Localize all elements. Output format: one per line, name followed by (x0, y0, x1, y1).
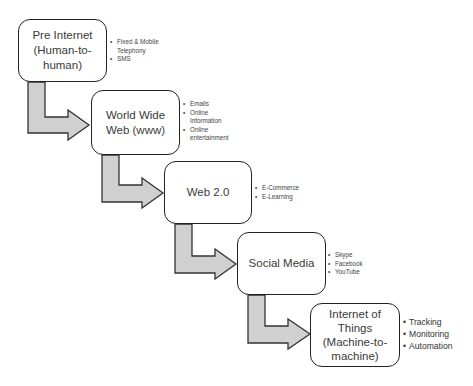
stage-bullets-world-wide-web: Emails Online Information Online enterta… (183, 100, 238, 143)
internet-evolution-diagram: Pre Internet (Human-to- human) Fixed & M… (0, 0, 473, 386)
stage-label: Internet of Things (Machine-to- machine) (323, 307, 388, 363)
bullet-item: SMS (110, 55, 170, 64)
stage-label: Social Media (249, 256, 315, 271)
bullet-item: Automation (403, 340, 473, 352)
stage-bullets-pre-internet: Fixed & Mobile Telephony SMS (110, 38, 170, 64)
arrow-2-icon (102, 155, 163, 208)
stage-bullets-social-media: Skype Facebook YouTube (328, 251, 383, 277)
bullet-item: E-Commerce (255, 184, 315, 193)
arrow-4-icon (248, 295, 310, 349)
stage-box-pre-internet: Pre Internet (Human-to- human) (18, 19, 107, 82)
stage-bullets-internet-of-things: Tracking Monitoring Automation (403, 316, 473, 352)
stage-box-world-wide-web: World Wide Web (www) (91, 90, 180, 155)
stage-label: Pre Internet (Human-to- human) (32, 28, 92, 73)
stage-bullets-web-2-0: E-Commerce E-Learning (255, 184, 315, 201)
bullet-item: Fixed & Mobile Telephony (110, 38, 170, 55)
bullet-item: Tracking (403, 316, 473, 328)
stage-box-web-2-0: Web 2.0 (164, 161, 252, 224)
stage-box-social-media: Social Media (237, 232, 326, 295)
bullet-item: Online Information (183, 109, 238, 126)
bullet-item: Facebook (328, 260, 383, 269)
bullet-item: E-Learning (255, 193, 315, 202)
arrow-3-icon (175, 224, 236, 279)
arrow-1-icon (28, 82, 89, 140)
bullet-item: YouTube (328, 268, 383, 277)
stage-label: Web 2.0 (187, 185, 230, 200)
bullet-item: Emails (183, 100, 238, 109)
stage-label: World Wide Web (www) (106, 108, 165, 138)
stage-box-internet-of-things: Internet of Things (Machine-to- machine) (310, 303, 400, 367)
bullet-item: Skype (328, 251, 383, 260)
bullet-item: Monitoring (403, 328, 473, 340)
bullet-item: Online entertainment (183, 126, 238, 143)
